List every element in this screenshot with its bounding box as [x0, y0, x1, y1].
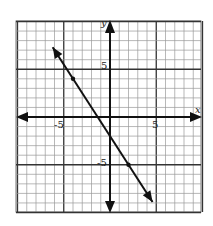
x-axis-label: x [195, 105, 201, 115]
y-tick-label-5: 5 [101, 61, 107, 71]
coordinate-plane [0, 0, 213, 226]
y-tick-label-neg5: -5 [97, 158, 107, 168]
x-tick-label-neg5: -5 [54, 120, 64, 130]
y-axis-label: y [101, 18, 107, 28]
x-tick-label-5: 5 [152, 120, 158, 130]
